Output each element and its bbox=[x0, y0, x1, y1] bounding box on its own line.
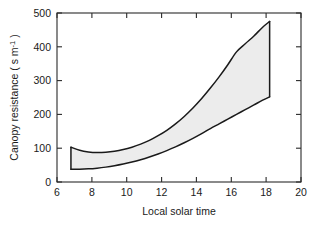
figure-canvas: 0 100 200 300 400 500 6 8 10 12 14 16 18… bbox=[0, 0, 316, 226]
x-tick-label: 10 bbox=[121, 186, 133, 198]
x-tick-label: 18 bbox=[260, 186, 272, 198]
x-tick-label: 8 bbox=[89, 186, 95, 198]
y-axis-title: Canopy resistance ( s m-1 ) bbox=[8, 34, 21, 160]
y-axis-title-exponent: -1 bbox=[8, 41, 17, 48]
y-tick-label: 500 bbox=[33, 7, 51, 19]
y-tick-label: 200 bbox=[33, 108, 51, 120]
x-axis-title: Local solar time bbox=[142, 205, 216, 217]
y-tick-label: 300 bbox=[33, 74, 51, 86]
uncertainty-band-fill bbox=[71, 21, 270, 169]
y-axis-title-tail: ) bbox=[8, 34, 20, 40]
x-tick-label: 12 bbox=[156, 186, 168, 198]
x-tick-label: 6 bbox=[54, 186, 60, 198]
x-tick-label: 16 bbox=[225, 186, 237, 198]
y-tick-label: 400 bbox=[33, 41, 51, 53]
canopy-resistance-chart: 0 100 200 300 400 500 6 8 10 12 14 16 18… bbox=[0, 0, 316, 226]
y-axis-title-main: Canopy resistance ( s m bbox=[8, 47, 20, 160]
x-tick-label: 20 bbox=[295, 186, 307, 198]
y-tick-labels: 0 100 200 300 400 500 bbox=[33, 7, 51, 188]
y-tick-label: 100 bbox=[33, 142, 51, 154]
x-tick-labels: 6 8 10 12 14 16 18 20 bbox=[54, 186, 307, 198]
y-tick-label: 0 bbox=[45, 176, 51, 188]
x-tick-label: 14 bbox=[191, 186, 203, 198]
